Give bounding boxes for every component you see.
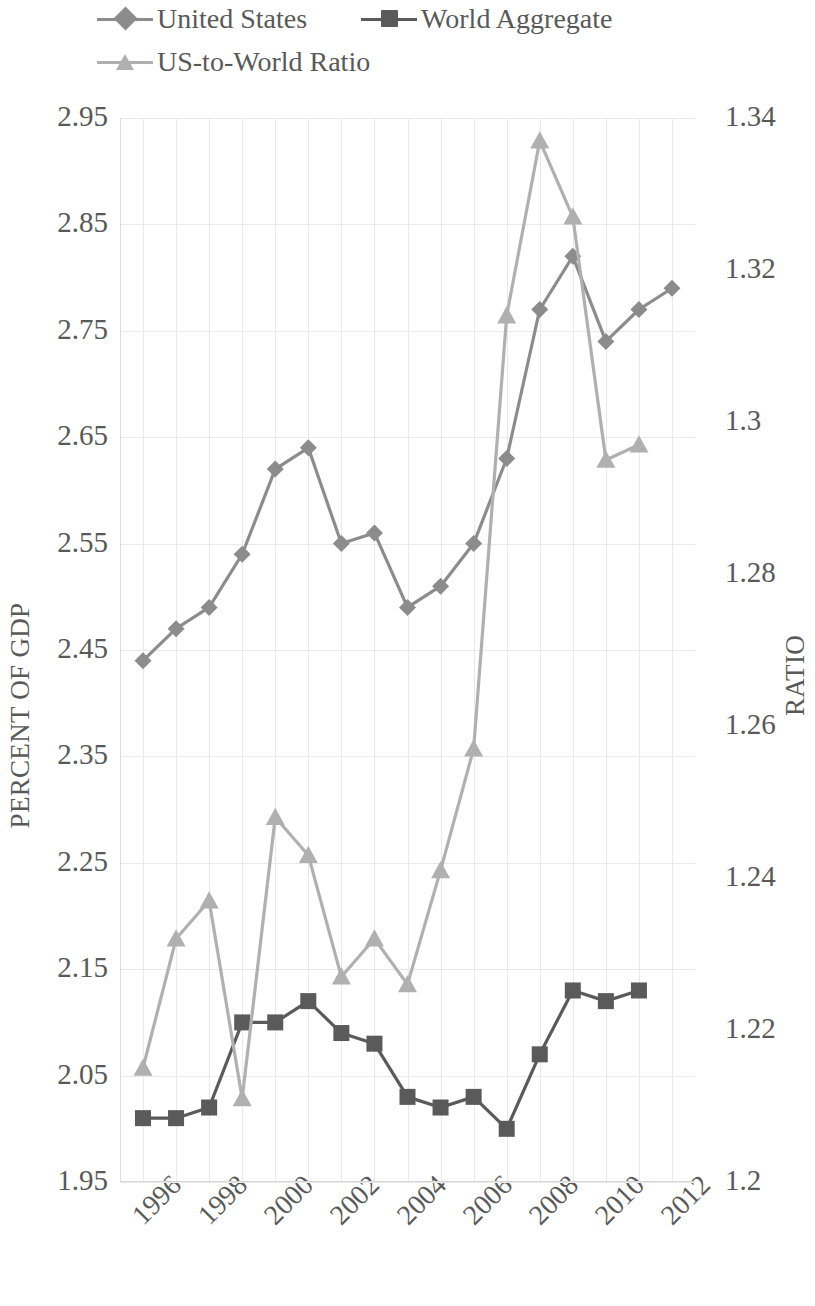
right-tick-label: 1.28 <box>725 558 776 587</box>
left-tick-label: 2.75 <box>57 315 108 344</box>
data-point-marker[interactable] <box>629 435 648 452</box>
data-point-marker[interactable] <box>565 982 581 998</box>
data-point-marker[interactable] <box>234 1014 250 1030</box>
series-line-us-to-world-ratio <box>143 141 639 1099</box>
data-point-marker[interactable] <box>201 1100 217 1116</box>
chart-figure: United States World Aggregate US-to-Worl… <box>0 0 815 1306</box>
gridline-horizontal <box>120 1182 695 1183</box>
chart-legend: United States World Aggregate US-to-Worl… <box>0 0 815 96</box>
data-point-marker[interactable] <box>531 301 548 318</box>
data-series-layer <box>120 118 695 1182</box>
data-point-marker[interactable] <box>598 993 614 1009</box>
data-point-marker[interactable] <box>400 1089 416 1105</box>
right-tick-label: 1.34 <box>725 102 776 131</box>
legend-label-world-aggregate: World Aggregate <box>421 5 612 33</box>
left-tick-label: 2.65 <box>57 421 108 450</box>
data-point-marker[interactable] <box>333 535 350 552</box>
legend-item-united-states[interactable]: United States <box>97 5 307 33</box>
legend-label-united-states: United States <box>157 5 307 33</box>
left-axis-title-wrap: PERCENT OF GDP <box>0 560 40 600</box>
data-point-marker[interactable] <box>333 1025 349 1041</box>
data-point-marker[interactable] <box>399 599 416 616</box>
data-point-marker[interactable] <box>563 207 582 224</box>
data-point-marker[interactable] <box>135 1110 151 1126</box>
right-tick-label: 1.26 <box>725 710 776 739</box>
left-tick-label: 2.85 <box>57 208 108 237</box>
data-point-marker[interactable] <box>433 1100 449 1116</box>
data-point-marker[interactable] <box>267 461 284 478</box>
data-point-marker[interactable] <box>201 599 218 616</box>
data-point-marker[interactable] <box>267 1014 283 1030</box>
plot-area <box>120 118 695 1182</box>
data-point-marker[interactable] <box>498 450 515 467</box>
data-point-marker[interactable] <box>300 993 316 1009</box>
data-point-marker[interactable] <box>532 1046 548 1062</box>
square-marker-icon <box>361 8 417 30</box>
right-tick-label: 1.3 <box>725 406 761 435</box>
series-line-world-aggregate <box>143 990 639 1128</box>
right-tick-label: 1.22 <box>725 1014 776 1043</box>
left-tick-label: 2.55 <box>57 528 108 557</box>
data-point-marker[interactable] <box>431 861 450 878</box>
legend-item-us-to-world-ratio[interactable]: US-to-World Ratio <box>97 48 370 76</box>
right-axis-title: RATIO <box>780 576 811 776</box>
right-tick-label: 1.2 <box>725 1166 761 1195</box>
left-tick-label: 2.45 <box>57 634 108 663</box>
left-tick-label: 2.25 <box>57 847 108 876</box>
diamond-marker-icon <box>97 8 153 30</box>
data-point-marker[interactable] <box>234 546 251 563</box>
data-point-marker[interactable] <box>365 929 384 946</box>
left-tick-label: 2.05 <box>57 1060 108 1089</box>
right-tick-label: 1.32 <box>725 254 776 283</box>
data-point-marker[interactable] <box>530 131 549 148</box>
data-point-marker[interactable] <box>466 1089 482 1105</box>
left-tick-label: 2.95 <box>57 102 108 131</box>
left-tick-label: 2.15 <box>57 953 108 982</box>
data-point-marker[interactable] <box>200 891 219 908</box>
data-point-marker[interactable] <box>366 1036 382 1052</box>
data-point-marker[interactable] <box>168 1110 184 1126</box>
triangle-marker-icon <box>97 51 153 73</box>
data-point-marker[interactable] <box>631 982 647 998</box>
data-point-marker[interactable] <box>499 1121 515 1137</box>
data-point-marker[interactable] <box>134 1059 153 1076</box>
right-tick-label: 1.24 <box>725 862 776 891</box>
data-point-marker[interactable] <box>497 306 516 323</box>
data-point-marker[interactable] <box>300 439 317 456</box>
left-axis-title: PERCENT OF GDP <box>5 566 36 866</box>
left-tick-label: 2.35 <box>57 740 108 769</box>
data-point-marker[interactable] <box>596 451 615 468</box>
data-point-marker[interactable] <box>233 1089 252 1106</box>
data-point-marker[interactable] <box>266 808 285 825</box>
data-point-marker[interactable] <box>366 524 383 541</box>
data-point-marker[interactable] <box>464 739 483 756</box>
legend-label-us-to-world-ratio: US-to-World Ratio <box>157 48 370 76</box>
legend-item-world-aggregate[interactable]: World Aggregate <box>361 5 612 33</box>
data-point-marker[interactable] <box>664 280 681 297</box>
right-axis-title-wrap: RATIO <box>775 600 815 640</box>
left-tick-label: 1.95 <box>57 1166 108 1195</box>
